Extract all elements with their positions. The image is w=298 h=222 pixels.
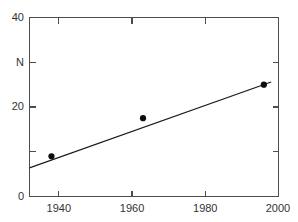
data-point-2: [140, 115, 146, 121]
y-axis-title: N: [16, 56, 24, 68]
plot-frame: [30, 18, 279, 197]
trend-line-group: [30, 82, 272, 168]
y-axis-ticks-right: [273, 62, 279, 152]
chart-figure: 1940 1960 1980 2000 40 20 0 N: [0, 0, 298, 222]
y-tick-label-0: 0: [18, 190, 24, 202]
linear-fit-line: [30, 82, 272, 168]
x-tick-label-1940: 1940: [47, 202, 71, 214]
x-tick-label-1960: 1960: [120, 202, 144, 214]
y-tick-label-40: 40: [12, 11, 24, 23]
y-tick-labels: 40 20 0: [12, 11, 24, 202]
axes-rectangle: [30, 18, 279, 197]
x-tick-label-2000: 2000: [266, 202, 290, 214]
y-tick-label-20: 20: [12, 100, 24, 112]
data-points-group: [48, 82, 267, 160]
x-tick-labels: 1940 1960 1980 2000: [47, 202, 291, 214]
x-axis-ticks-top: [59, 18, 205, 24]
x-axis-ticks-bottom: [59, 191, 205, 197]
data-point-1: [48, 153, 54, 159]
x-tick-label-1980: 1980: [193, 202, 217, 214]
data-point-3: [261, 82, 267, 88]
scatter-chart: 1940 1960 1980 2000 40 20 0 N: [0, 0, 298, 222]
y-axis-ticks-left: [30, 62, 36, 152]
